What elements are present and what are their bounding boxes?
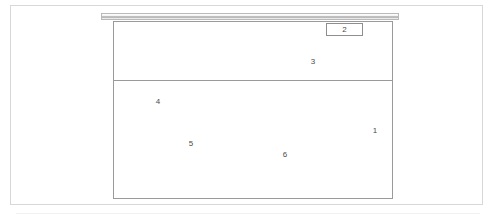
reference-label-4: 4 <box>156 98 160 106</box>
region-divider-line <box>113 80 393 81</box>
top-bar-element <box>101 13 399 20</box>
reference-label-1: 1 <box>373 127 377 135</box>
reference-label-5: 5 <box>189 140 193 148</box>
reference-label-3: 3 <box>311 58 315 66</box>
reference-label-6: 6 <box>283 151 287 159</box>
callout-box-2: 2 <box>326 23 363 36</box>
figure-canvas: 2 3 4 5 6 1 <box>0 0 496 224</box>
bottom-edge-artifact <box>16 213 480 214</box>
reference-label-2: 2 <box>342 26 346 34</box>
main-enclosure-rectangle <box>113 21 393 199</box>
